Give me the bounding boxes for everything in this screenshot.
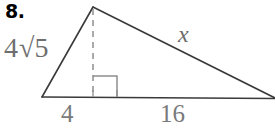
radicand: 5 — [34, 32, 48, 63]
hypotenuse-label: x — [178, 22, 189, 46]
base-segment-right-label: 16 — [160, 101, 185, 126]
right-angle-marker — [93, 76, 117, 97]
radical-symbol: √5 — [18, 34, 48, 62]
base-segment-left-label: 4 — [61, 101, 74, 126]
problem-number: 8. — [5, 2, 24, 21]
left-leg-label: 4√5 — [4, 34, 48, 62]
triangle-diagram — [0, 0, 275, 135]
geometry-figure: 8. 4√5 x 4 16 — [0, 0, 275, 135]
triangle-left-leg — [42, 7, 93, 97]
triangle-base — [42, 97, 275, 99]
left-leg-coefficient: 4 — [4, 32, 18, 63]
